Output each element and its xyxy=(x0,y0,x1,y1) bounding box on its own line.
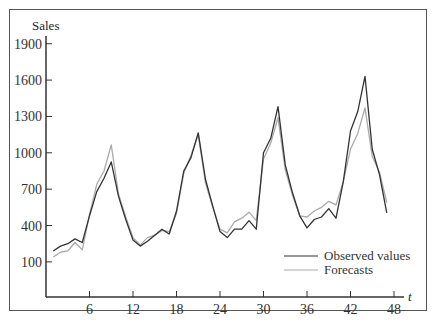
y-tick-label: 1900 xyxy=(14,37,42,52)
observed-line xyxy=(53,76,387,251)
legend: Observed values Forecasts xyxy=(284,248,410,277)
x-tick-label: 36 xyxy=(300,302,314,317)
y-tick-label: 700 xyxy=(21,182,42,197)
legend-forecast-label: Forecasts xyxy=(324,262,373,277)
y-tick-label: 1000 xyxy=(14,146,42,161)
x-tick-label: 48 xyxy=(387,302,401,317)
y-tick-label: 100 xyxy=(21,255,42,270)
x-tick-label: 6 xyxy=(86,302,93,317)
y-tick-label: 400 xyxy=(21,219,42,234)
sales-forecast-chart: Salest1004007001000130016001900612182430… xyxy=(0,0,436,326)
y-tick-label: 1600 xyxy=(14,73,42,88)
x-tick-label: 12 xyxy=(126,302,140,317)
legend-observed-label: Observed values xyxy=(324,248,410,263)
x-tick-label: 30 xyxy=(257,302,271,317)
x-tick-label: 24 xyxy=(213,302,227,317)
x-tick-label: 18 xyxy=(170,302,184,317)
forecast-line xyxy=(53,108,387,257)
x-tick-label: 42 xyxy=(344,302,358,317)
y-axis-title: Sales xyxy=(32,18,59,33)
series-lines xyxy=(53,76,387,257)
x-axis-title: t xyxy=(408,289,412,304)
y-tick-label: 1300 xyxy=(14,109,42,124)
